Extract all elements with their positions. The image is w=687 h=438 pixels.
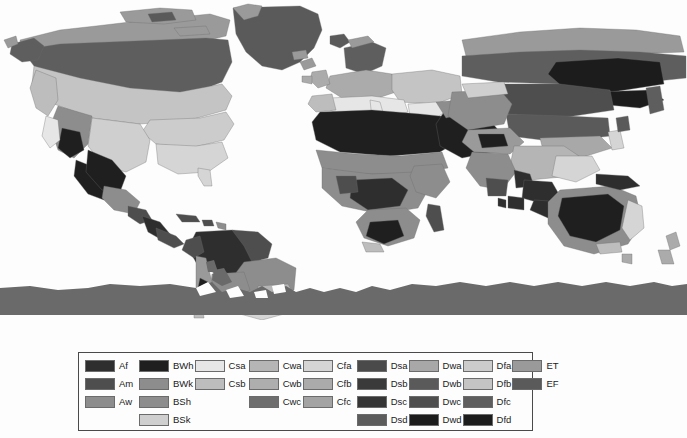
- legend-label-Cwa: Cwa: [283, 360, 302, 372]
- legend-swatch-Cwc: [249, 396, 279, 408]
- legend-entry-Dsd: Dsd: [357, 411, 408, 428]
- climate-map-figure: AfAmAwXXXBWhBWkBShBSkCsaCsbXXXXXXCwaCwbC…: [0, 0, 687, 438]
- legend-entry-Dsa: Dsa: [357, 357, 408, 374]
- legend-swatch-Am: [85, 378, 115, 390]
- legend-swatch-BSk: [139, 414, 169, 426]
- legend-swatch-Dfc: [463, 396, 493, 408]
- legend-swatch-Dsb: [357, 378, 387, 390]
- legend-entry-Cwa: Cwa: [249, 357, 302, 374]
- legend-label-Dfa: Dfa: [497, 360, 512, 372]
- legend-swatch-Cwa: [249, 360, 279, 372]
- legend-entry-Aw: Aw: [85, 393, 138, 410]
- legend-entry-ET: ET: [512, 357, 565, 374]
- legend-label-Dsb: Dsb: [391, 378, 408, 390]
- legend-entry-Am: Am: [85, 375, 138, 392]
- legend-entry-BWh: BWh: [139, 357, 194, 374]
- legend-label-BSk: BSk: [173, 414, 190, 426]
- legend-label-Dfb: Dfb: [497, 378, 512, 390]
- legend-swatch-BSh: [139, 396, 169, 408]
- legend-label-Aw: Aw: [119, 396, 132, 408]
- legend-label-Dfc: Dfc: [497, 396, 511, 408]
- legend-swatch-Cfc: [303, 396, 333, 408]
- legend-entry-BSh: BSh: [139, 393, 194, 410]
- legend-label-Am: Am: [119, 378, 133, 390]
- legend-column-group-e: ETEFXXXXXX: [512, 357, 565, 429]
- legend-swatch-Cfb: [303, 378, 333, 390]
- legend-label-Dwb: Dwb: [443, 378, 462, 390]
- legend-swatch-Dwd: [409, 414, 439, 426]
- legend-column-group-cf: CfaCfbCfcXXX: [303, 357, 356, 429]
- legend-label-BWh: BWh: [173, 360, 194, 372]
- legend-swatch-Dwa: [409, 360, 439, 372]
- legend-label-Cwb: Cwb: [283, 378, 302, 390]
- legend-swatch-BWh: [139, 360, 169, 372]
- legend-label-EF: EF: [546, 378, 558, 390]
- legend-entry-Cfb: Cfb: [303, 375, 356, 392]
- legend-entry-BSk: BSk: [139, 411, 194, 428]
- legend-column-group-cs: CsaCsbXXXXXX: [195, 357, 248, 429]
- legend-swatch-Dsa: [357, 360, 387, 372]
- legend-entry-Dfa: Dfa: [463, 357, 512, 374]
- legend-label-Csb: Csb: [229, 378, 246, 390]
- legend-entry-Dfc: Dfc: [463, 393, 512, 410]
- legend-swatch-Cfa: [303, 360, 333, 372]
- legend-entry-Dwa: Dwa: [409, 357, 462, 374]
- legend-swatch-Dwb: [409, 378, 439, 390]
- legend-entry-Dfb: Dfb: [463, 375, 512, 392]
- legend-label-ET: ET: [546, 360, 558, 372]
- legend-swatch-Dfa: [463, 360, 493, 372]
- legend-entry-Cfc: Cfc: [303, 393, 356, 410]
- legend-label-Dsa: Dsa: [391, 360, 408, 372]
- legend-swatch-Af: [85, 360, 115, 372]
- legend-entry-Dwc: Dwc: [409, 393, 462, 410]
- legend-label-Dwd: Dwd: [443, 414, 462, 426]
- legend-label-Af: Af: [119, 360, 128, 372]
- legend-entry-BWk: BWk: [139, 375, 194, 392]
- legend-entry-Csb: Csb: [195, 375, 248, 392]
- legend-label-Dsd: Dsd: [391, 414, 408, 426]
- legend-entry-Cwb: Cwb: [249, 375, 302, 392]
- legend-swatch-Dsc: [357, 396, 387, 408]
- legend-entry-Dsc: Dsc: [357, 393, 408, 410]
- legend-entry-Csa: Csa: [195, 357, 248, 374]
- legend: AfAmAwXXXBWhBWkBShBSkCsaCsbXXXXXXCwaCwbC…: [78, 352, 533, 431]
- legend-swatch-Dfb: [463, 378, 493, 390]
- legend-swatch-Dfd: [463, 414, 493, 426]
- legend-label-Cfc: Cfc: [337, 396, 351, 408]
- legend-label-Cfb: Cfb: [337, 378, 352, 390]
- legend-entry-Cwc: Cwc: [249, 393, 302, 410]
- legend-column-group-ds: DsaDsbDscDsd: [357, 357, 408, 429]
- legend-label-Cfa: Cfa: [337, 360, 352, 372]
- legend-swatch-EF: [512, 378, 542, 390]
- legend-column-group-dw: DwaDwbDwcDwd: [409, 357, 462, 429]
- legend-column-group-a: AfAmAwXXX: [85, 357, 138, 429]
- legend-label-BWk: BWk: [173, 378, 193, 390]
- legend-swatch-Csb: [195, 378, 225, 390]
- legend-swatch-ET: [512, 360, 542, 372]
- legend-swatch-Aw: [85, 396, 115, 408]
- legend-swatch-Dsd: [357, 414, 387, 426]
- legend-column-group-b: BWhBWkBShBSk: [139, 357, 194, 429]
- legend-swatch-Dwc: [409, 396, 439, 408]
- legend-column-group-df: DfaDfbDfcDfd: [463, 357, 512, 429]
- legend-entry-Dsb: Dsb: [357, 375, 408, 392]
- world-climate-map: [0, 0, 687, 320]
- legend-label-Dwc: Dwc: [443, 396, 461, 408]
- legend-swatch-Csa: [195, 360, 225, 372]
- map-canvas: [0, 0, 687, 320]
- legend-swatch-Cwb: [249, 378, 279, 390]
- legend-swatch-BWk: [139, 378, 169, 390]
- legend-entry-Af: Af: [85, 357, 138, 374]
- legend-label-Dfd: Dfd: [497, 414, 512, 426]
- legend-label-Dsc: Dsc: [391, 396, 407, 408]
- legend-label-Csa: Csa: [229, 360, 246, 372]
- legend-label-Cwc: Cwc: [283, 396, 301, 408]
- legend-label-Dwa: Dwa: [443, 360, 462, 372]
- legend-entry-Cfa: Cfa: [303, 357, 356, 374]
- legend-column-group-cw: CwaCwbCwcXXX: [249, 357, 302, 429]
- legend-entry-Dwd: Dwd: [409, 411, 462, 428]
- legend-entry-EF: EF: [512, 375, 565, 392]
- legend-entry-Dwb: Dwb: [409, 375, 462, 392]
- legend-label-BSh: BSh: [173, 396, 191, 408]
- legend-entry-Dfd: Dfd: [463, 411, 512, 428]
